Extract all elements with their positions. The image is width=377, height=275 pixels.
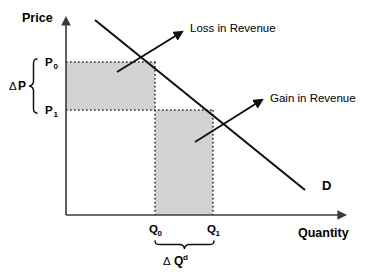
economics-diagram: Price Quantity P 0 P 1 Δ P Q 0 Q 1 [0,0,377,275]
gain-revenue-label: Gain in Revenue [270,92,356,104]
x-axis-title: Quantity [298,226,349,240]
svg-text:1: 1 [216,229,221,238]
delta-q-brace [155,241,214,249]
loss-revenue-region [66,62,155,110]
svg-text:P: P [18,79,26,93]
demand-curve-label: D [322,178,331,193]
svg-text:d: d [183,253,188,262]
q0-label: Q 0 [149,223,163,238]
q1-label: Q 1 [207,223,221,238]
delta-p-brace [30,59,38,113]
svg-text:P: P [45,56,53,68]
loss-revenue-label: Loss in Revenue [190,22,276,34]
gain-revenue-region [155,110,213,215]
diagram-canvas: Price Quantity P 0 P 1 Δ P Q 0 Q 1 [0,0,377,275]
y-axis-title: Price [22,11,53,25]
svg-text:Δ: Δ [163,255,171,267]
svg-text:0: 0 [158,229,163,238]
svg-text:0: 0 [54,62,59,71]
p0-label: P 0 [45,56,59,71]
delta-q-label: Δ Q d [163,253,188,268]
svg-text:Q: Q [174,254,183,268]
delta-p-label: Δ P [9,79,26,93]
svg-text:1: 1 [54,110,59,119]
svg-text:Δ: Δ [9,80,17,92]
p1-label: P 1 [45,104,59,119]
svg-text:P: P [45,104,53,116]
